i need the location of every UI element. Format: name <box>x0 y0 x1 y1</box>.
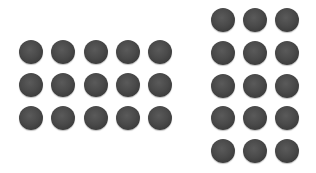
dot <box>243 106 267 130</box>
dot <box>51 40 75 64</box>
dot <box>148 73 172 97</box>
dot <box>275 74 299 98</box>
dot <box>84 73 108 97</box>
dot <box>51 73 75 97</box>
dot <box>19 106 43 130</box>
dot <box>275 8 299 32</box>
dot <box>51 106 75 130</box>
dot <box>84 106 108 130</box>
dot <box>275 41 299 65</box>
dot <box>84 40 108 64</box>
dot <box>116 106 140 130</box>
dot <box>19 40 43 64</box>
dot <box>148 106 172 130</box>
dot <box>116 73 140 97</box>
dot <box>211 74 235 98</box>
dot <box>211 8 235 32</box>
dot <box>148 40 172 64</box>
dot <box>211 106 235 130</box>
dot <box>19 73 43 97</box>
dot <box>243 74 267 98</box>
dot <box>211 139 235 163</box>
dot <box>243 8 267 32</box>
dot <box>116 40 140 64</box>
dot <box>275 139 299 163</box>
dot <box>243 41 267 65</box>
dot <box>211 41 235 65</box>
dot <box>243 139 267 163</box>
dot <box>275 106 299 130</box>
